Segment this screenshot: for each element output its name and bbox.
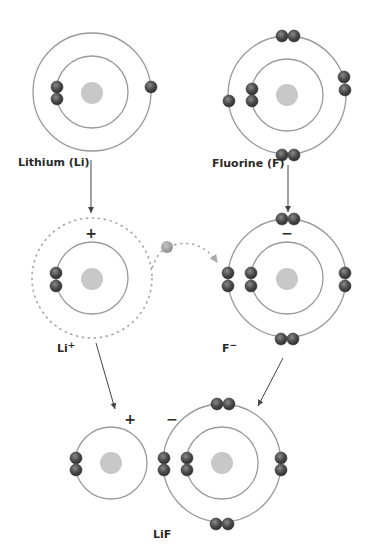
transfer-arrow — [174, 243, 217, 262]
electron-icon — [275, 452, 287, 464]
electron-icon — [276, 213, 288, 225]
fluoride-ion-symbol: F — [222, 342, 230, 355]
electron-icon — [246, 83, 258, 95]
electron-icon — [50, 280, 62, 292]
electron-icon — [210, 518, 222, 530]
electron-icon — [287, 333, 299, 345]
electron-icon — [245, 267, 257, 279]
nucleus — [81, 268, 103, 290]
arrow-li-ion-to-compound — [96, 343, 115, 409]
nucleus — [100, 452, 122, 474]
compound-lithium-ion: + — [70, 411, 147, 499]
fluoride-ion-charge: − — [230, 340, 238, 350]
electron-icon — [338, 71, 350, 83]
electron-icon — [245, 280, 257, 292]
lithium-ion-label: Li+ — [57, 340, 75, 355]
ionic-bond-diagram: Lithium (Li) Fluorine (F) + Li+ — [0, 0, 377, 560]
compound-fluoride-ion: − — [158, 398, 287, 530]
electron-icon — [158, 452, 170, 464]
fluoride-ion-label: F− — [222, 340, 237, 355]
electron-icon — [275, 333, 287, 345]
electron-icon — [222, 267, 234, 279]
electron-icon — [70, 464, 82, 476]
nucleus — [211, 452, 233, 474]
lithium-label: Lithium (Li) — [18, 156, 90, 169]
electron-icon — [339, 84, 351, 96]
compound-positive-sign: + — [124, 411, 136, 427]
nucleus — [276, 84, 298, 106]
nucleus — [81, 82, 103, 104]
electron-icon — [222, 280, 234, 292]
electron-icon — [275, 464, 287, 476]
nucleus — [276, 268, 298, 290]
lithium-ion-charge: + — [68, 340, 76, 350]
electron-icon — [181, 452, 193, 464]
compound-label: LiF — [153, 528, 171, 541]
electron-icon — [51, 93, 63, 105]
electron-icon — [288, 213, 300, 225]
electron-icon — [211, 398, 223, 410]
negative-charge-sign: − — [281, 225, 293, 241]
electron-icon — [145, 81, 157, 93]
electron-icon — [276, 30, 288, 42]
lithium-ion-symbol: Li — [57, 342, 68, 355]
electron-icon — [50, 267, 62, 279]
electron-icon — [181, 464, 193, 476]
lithium-ion: + Li+ — [32, 218, 152, 355]
electron-icon — [223, 95, 235, 107]
fluorine-label: Fluorine (F) — [212, 157, 285, 170]
fluorine-atom: Fluorine (F) — [212, 30, 351, 170]
fluoride-ion: − F− — [222, 213, 351, 355]
electron-icon — [223, 398, 235, 410]
electron-icon — [51, 81, 63, 93]
electron-icon — [246, 95, 258, 107]
lithium-atom: Lithium (Li) — [18, 33, 157, 169]
arrow-f-ion-to-compound — [258, 358, 283, 406]
electron-icon — [288, 30, 300, 42]
electron-icon — [158, 464, 170, 476]
electron-icon — [222, 518, 234, 530]
electron-icon — [288, 149, 300, 161]
electron-icon — [339, 280, 351, 292]
electron-transfer — [152, 241, 217, 268]
compound-negative-sign: − — [166, 411, 178, 427]
electron-icon — [70, 452, 82, 464]
positive-charge-sign: + — [85, 225, 97, 241]
electron-icon — [339, 267, 351, 279]
lithium-fluoride-compound: + − LiF — [70, 398, 287, 541]
transferred-electron-icon — [161, 241, 173, 253]
